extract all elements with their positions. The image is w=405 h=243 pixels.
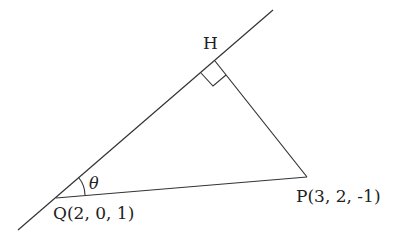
angle-theta-arc — [79, 178, 85, 195]
line-through-q-h — [18, 10, 273, 230]
point-p-label: P(3, 2, -1) — [296, 188, 381, 205]
point-h-label: H — [203, 35, 218, 52]
point-q-label: Q(2, 0, 1) — [53, 205, 134, 222]
segment-h-p — [215, 61, 307, 177]
right-angle-mark — [201, 73, 226, 86]
angle-theta-label: θ — [89, 176, 99, 192]
